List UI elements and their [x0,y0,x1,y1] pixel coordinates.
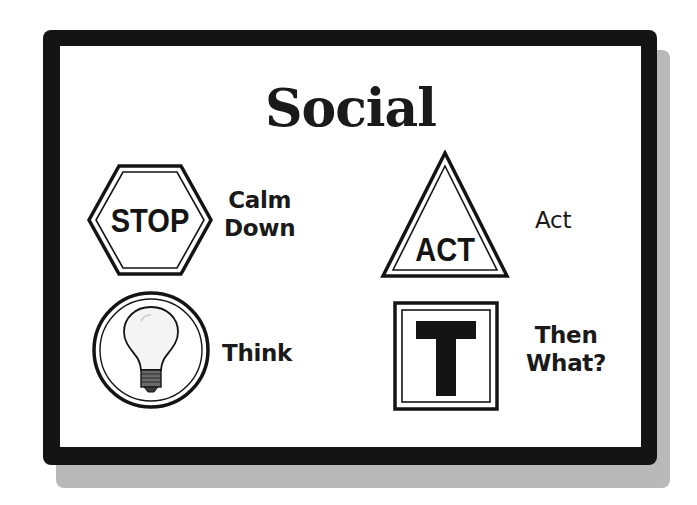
step-label-think: Think [222,339,292,367]
social-card-frame: Social STOP Calm Down ACT Act [43,30,657,465]
step-label-then-what: Then What? [526,321,606,377]
step-label-act: Act [535,206,571,234]
stop-sign-text: STOP [111,202,190,239]
act-triangle-icon: ACT [380,150,510,280]
act-sign-text: ACT [415,231,475,268]
lightbulb-icon [91,289,211,411]
card-title: Social [60,82,641,134]
step-label-calm-down: Calm Down [224,186,295,242]
social-card-panel: Social STOP Calm Down ACT Act [60,46,641,447]
t-square-icon [393,301,499,411]
stop-sign-icon: STOP [87,164,213,276]
